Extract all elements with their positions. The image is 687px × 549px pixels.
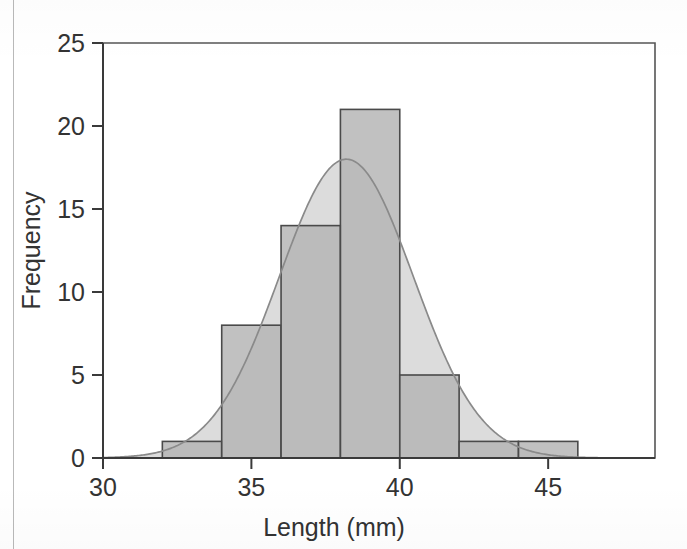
y-axis-tick-label: 0: [71, 444, 85, 472]
y-axis-tick-labels: 0510152025: [57, 29, 85, 472]
x-axis-tick-label: 30: [89, 473, 117, 501]
y-axis-title: Frequency: [17, 191, 45, 310]
x-axis-ticks: [103, 458, 548, 469]
histogram-figure: 0510152025 30354045 Frequency Length (mm…: [0, 0, 687, 549]
x-axis-tick-label: 40: [386, 473, 414, 501]
y-axis-tick-label: 10: [57, 278, 85, 306]
y-axis-tick-label: 5: [71, 361, 85, 389]
x-axis-tick-label: 35: [237, 473, 265, 501]
histogram-bar: [340, 109, 399, 458]
histogram-bar: [162, 441, 221, 458]
x-axis-title: Length (mm): [263, 513, 405, 541]
x-axis-tick-label: 45: [534, 473, 562, 501]
x-axis-tick-labels: 30354045: [89, 473, 562, 501]
y-axis-tick-label: 20: [57, 112, 85, 140]
histogram-bars: [162, 109, 577, 458]
y-axis-tick-label: 25: [57, 29, 85, 57]
y-axis-tick-label: 15: [57, 195, 85, 223]
histogram-bar: [459, 441, 518, 458]
histogram-bar: [281, 226, 340, 458]
chart-canvas: 0510152025 30354045 Frequency Length (mm…: [0, 0, 687, 549]
histogram-bar: [400, 375, 459, 458]
y-axis-ticks: [92, 43, 103, 458]
